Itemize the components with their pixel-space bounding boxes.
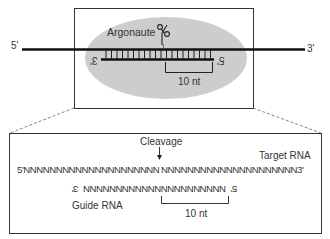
upper-10nt-label: 10 nt [178, 77, 200, 87]
cleavage-arrow-head [157, 155, 162, 160]
guide-sequence: NNNNNNNNNNNNNNNNNNNNNN [83, 184, 226, 194]
guide-5prime-end: 5' [231, 184, 237, 194]
target-rna-label: Target RNA [259, 151, 311, 161]
diagram-graphics [0, 0, 330, 239]
target-3prime-label: 3' [307, 44, 314, 54]
guide-rna-label: Guide RNA [72, 201, 123, 211]
argonaute-label: Argonaute [107, 27, 155, 37]
zoom-line-right [253, 108, 321, 133]
guide-5prime-text: 5' [217, 55, 224, 65]
target-sequence-right: NNNNNNNNNNNNNNNNNNNNN3' [161, 165, 303, 175]
target-5prime-label: 5' [11, 41, 18, 51]
guide-3prime-label: 3' [90, 55, 97, 65]
target-sequence-left: 5'NNNNNNNNNNNNNNNNNNNNN [17, 165, 159, 175]
lower-10nt-label: 10 nt [185, 209, 207, 219]
guide-5prime-label: 5' [217, 55, 224, 65]
lower-10nt-bracket [162, 196, 229, 204]
guide-3prime-end: 3' [72, 184, 78, 194]
guide-3prime-text: 3' [90, 55, 97, 65]
cleavage-label: Cleavage [140, 137, 182, 147]
zoom-line-left [10, 108, 74, 133]
guide-5prime-end-text: 5' [231, 184, 237, 194]
guide-3prime-end-text: 3' [72, 184, 78, 194]
